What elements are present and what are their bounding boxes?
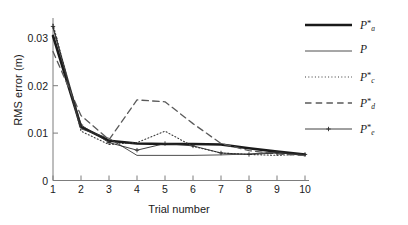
- legend-label-Pstard: P*d: [360, 96, 375, 112]
- legend-label-P: P: [360, 44, 367, 55]
- legend-label-Pstara: P*a: [360, 18, 375, 34]
- legend-label-Pstarc: P*c: [360, 70, 375, 86]
- chart-figure: RMS error (m) Trial number 00.010.020.03…: [0, 0, 408, 225]
- legend: P*aPP*cP*dP*e: [0, 0, 408, 225]
- legend-label-Pstare: P*e: [360, 122, 375, 138]
